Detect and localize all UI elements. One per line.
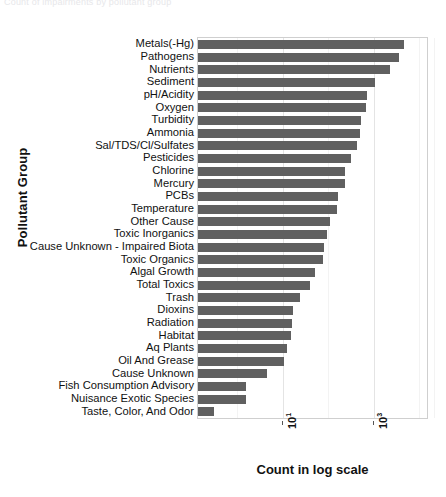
bar-sal-tds-cl-sulfates <box>198 141 357 150</box>
bar-chlorine <box>198 167 345 176</box>
bar-radiation <box>198 319 292 328</box>
y-axis-category-label: Toxic Inorganics <box>114 227 194 239</box>
bar-turbidity <box>198 116 361 125</box>
y-axis-category-label: Pesticides <box>143 151 194 163</box>
y-axis-tick-labels: Metals(-Hg)PathogensNutrientsSedimentpH/… <box>30 37 194 419</box>
x-tick-mark <box>282 421 283 425</box>
bar-fish-consumption-advisory <box>198 382 246 391</box>
y-axis-category-label: Nuisance Exotic Species <box>71 392 194 404</box>
y-axis-category-label: Chlorine <box>152 164 194 176</box>
y-axis-category-label: Total Toxics <box>136 278 194 290</box>
y-axis-category-label: Cause Unknown <box>112 367 194 379</box>
bar-other-cause <box>198 217 330 226</box>
y-axis-category-label: Toxic Organics <box>121 253 194 265</box>
y-axis-category-label: Aq Plants <box>146 341 194 353</box>
bar-habitat <box>198 331 291 340</box>
bar-ph-acidity <box>198 91 367 100</box>
y-axis-category-label: Nutrients <box>149 63 194 75</box>
bar-taste-color-and-odor <box>198 407 214 416</box>
bar-oxygen <box>198 103 366 112</box>
x-tick-label-10e3: 103 <box>376 413 389 429</box>
bar-nutrients <box>198 65 390 74</box>
bar-oil-and-grease <box>198 357 284 366</box>
bar-cause-unknown <box>198 369 267 378</box>
y-axis-category-label: Algal Growth <box>130 265 194 277</box>
bar-mercury <box>198 179 345 188</box>
y-axis-category-label: Temperature <box>131 202 194 214</box>
bar-toxic-organics <box>198 255 323 264</box>
bar-pathogens <box>198 53 399 62</box>
plot-panel <box>197 37 428 419</box>
gridline-major-10e3 <box>374 38 375 418</box>
bar-trash <box>198 293 300 302</box>
bar-ammonia <box>198 129 360 138</box>
bar-toxic-inorganics <box>198 230 327 239</box>
y-axis-category-label: Ammonia <box>147 126 194 138</box>
x-tick-label-10e1: 101 <box>285 413 298 429</box>
y-axis-category-label: Turbidity <box>152 113 194 125</box>
y-axis-category-label: Other Cause <box>131 215 194 227</box>
x-tick-mark <box>373 421 374 425</box>
bar-pcbs <box>198 192 338 201</box>
y-axis-category-label: Sediment <box>147 75 194 87</box>
bar-dioxins <box>198 306 293 315</box>
y-axis-category-label: Radiation <box>147 316 194 328</box>
y-axis-category-label: Oil And Grease <box>118 354 194 366</box>
bar-algal-growth <box>198 268 315 277</box>
bar-metals-hg <box>198 40 404 49</box>
x-axis-title: Count in log scale <box>197 462 428 477</box>
y-axis-category-label: Metals(-Hg) <box>136 37 194 49</box>
bar-total-toxics <box>198 281 310 290</box>
bar-cause-unknown-impaired-biota <box>198 243 324 252</box>
y-axis-category-label: Dioxins <box>157 303 194 315</box>
gridline-minor <box>419 38 420 418</box>
y-axis-category-label: PCBs <box>165 189 194 201</box>
bar-temperature <box>198 205 337 214</box>
y-axis-category-label: pH/Acidity <box>144 88 194 100</box>
x-axis-ticks: 101 103 <box>197 421 428 461</box>
bar-sediment <box>198 78 375 87</box>
y-axis-category-label: Trash <box>166 291 194 303</box>
bar-pesticides <box>198 154 351 163</box>
y-axis-category-label: Fish Consumption Advisory <box>58 379 194 391</box>
y-axis-category-label: Taste, Color, And Odor <box>81 405 194 417</box>
y-axis-category-label: Oxygen <box>155 101 194 113</box>
bar-aq-plants <box>198 344 287 353</box>
y-axis-category-label: Mercury <box>154 177 194 189</box>
gridline-minor <box>434 38 435 418</box>
chart-plot-wrapper: Metals(-Hg)PathogensNutrientsSedimentpH/… <box>0 0 446 497</box>
y-axis-category-label: Habitat <box>159 329 194 341</box>
y-axis-category-label: Cause Unknown - Impaired Biota <box>30 240 194 252</box>
bar-nuisance-exotic-species <box>198 395 246 404</box>
y-axis-category-label: Sal/TDS/Cl/Sulfates <box>95 139 194 151</box>
y-axis-category-label: Pathogens <box>141 50 195 62</box>
